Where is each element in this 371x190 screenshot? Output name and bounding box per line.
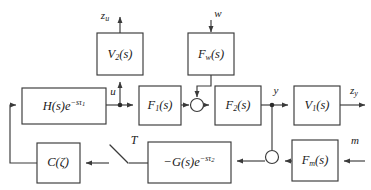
signal-label-w: w xyxy=(214,7,222,19)
block-Fw[interactable]: Fw(s) xyxy=(188,33,234,75)
branch-node-y xyxy=(270,103,275,108)
block-F1-label: F1(s) xyxy=(147,98,173,112)
switch-label: T xyxy=(131,133,139,147)
diagram-svg: T V2(s) Fw(s) H(s)e−sτ1 F1(s) F2(s) xyxy=(0,0,371,190)
switch-T[interactable]: T xyxy=(110,133,139,163)
block-F1[interactable]: F1(s) xyxy=(139,86,181,125)
block-Fm[interactable]: Fm(s) xyxy=(292,140,338,181)
block-V1-label: V1(s) xyxy=(305,98,330,112)
wire-Fw-to-sum xyxy=(197,75,211,97)
block-diagram-canvas: T V2(s) Fw(s) H(s)e−sτ1 F1(s) F2(s) xyxy=(0,0,371,190)
sum-junction-plant-input[interactable] xyxy=(191,99,204,112)
sum-junction-measurement[interactable] xyxy=(266,151,279,164)
block-F2-label: F2(s) xyxy=(225,98,251,112)
signal-label-u: u xyxy=(110,85,116,97)
signal-label-m: m xyxy=(351,134,359,146)
block-Fm-label: Fm(s) xyxy=(301,153,329,167)
block-V1[interactable]: V1(s) xyxy=(294,86,340,125)
block-G[interactable]: −G(s)e−sτ2 xyxy=(148,142,231,183)
signal-label-y: y xyxy=(273,84,279,96)
block-V2[interactable]: V2(s) xyxy=(97,33,143,75)
block-C[interactable]: C(ζ) xyxy=(37,143,80,183)
block-H[interactable]: H(s)e−sτ1 xyxy=(22,88,106,124)
block-V2-label: V2(s) xyxy=(108,47,133,61)
block-C-label: C(ζ) xyxy=(47,155,69,169)
switch-lever[interactable] xyxy=(110,145,128,163)
branch-node-u xyxy=(118,103,123,108)
block-Fw-label: Fw(s) xyxy=(197,47,224,61)
signal-label-zu: zu xyxy=(100,9,109,23)
signal-label-zy: zy xyxy=(349,84,358,98)
block-F2[interactable]: F2(s) xyxy=(215,86,261,125)
